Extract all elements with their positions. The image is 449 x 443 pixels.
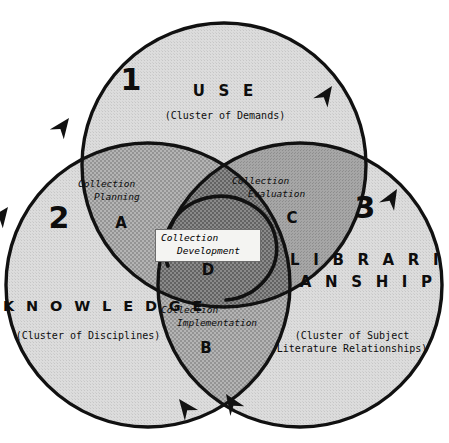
center-label-box: Collection Development <box>155 229 261 262</box>
arrowhead-icon <box>0 202 15 229</box>
venn-svg <box>0 0 449 443</box>
arrowhead-icon <box>50 113 76 140</box>
center-label-line1: Collection <box>161 232 255 245</box>
center-label-line2: Development <box>161 245 255 258</box>
venn-diagram-figure: 1 U S E (Cluster of Demands) 2 K N O W L… <box>0 0 449 443</box>
